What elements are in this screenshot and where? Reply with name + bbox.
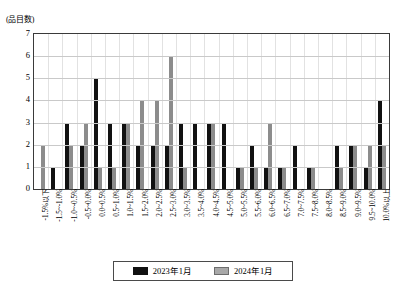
x-axis-tick: 9.0~9.5%	[356, 189, 363, 249]
legend-swatch-2024	[214, 267, 229, 275]
x-axis-tick: 3.5~4.0%	[199, 189, 206, 249]
y-axis-tick: 7	[0, 29, 30, 37]
bar-group	[361, 34, 375, 189]
bar-group	[176, 34, 190, 189]
bar	[222, 123, 226, 189]
x-axis-tick: -1.5~-1.0%	[57, 189, 64, 249]
legend-label-2024: 2024年1月	[234, 267, 273, 276]
bar-group	[290, 34, 304, 189]
y-axis-tick-labels: 01234567	[0, 33, 30, 190]
legend-item-2023: 2023年1月	[133, 267, 192, 276]
gridline	[34, 167, 389, 168]
bar-group	[62, 34, 76, 189]
bar-group	[190, 34, 204, 189]
gridline	[34, 145, 389, 146]
legend-label-2023: 2023年1月	[153, 267, 192, 276]
x-axis-tick-labels: -1.5%以下-1.5~-1.0%-1.0~-0.5%-0.5~0.0%0.0~…	[33, 191, 390, 253]
x-axis-tick: 6.0~6.5%	[270, 189, 277, 249]
chart-legend: 2023年1月 2024年1月	[113, 261, 293, 281]
bar-group	[77, 34, 91, 189]
bar	[193, 123, 197, 189]
bar	[112, 167, 116, 189]
legend-swatch-2023	[133, 267, 148, 275]
bar-group	[247, 34, 261, 189]
bar-group	[91, 34, 105, 189]
legend-item-2024: 2024年1月	[214, 267, 273, 276]
x-axis-tick: 7.0~7.5%	[299, 189, 306, 249]
x-axis-tick: 5.0~5.5%	[242, 189, 249, 249]
y-axis-tick: 5	[0, 73, 30, 81]
x-axis-tick: 7.5~8.0%	[313, 189, 320, 249]
bar	[311, 167, 315, 189]
bar-group	[148, 34, 162, 189]
bar-chart: (品目数) 01234567 -1.5%以下-1.5~-1.0%-1.0~-0.…	[0, 0, 403, 287]
x-axis-tick: 3.0~3.5%	[185, 189, 192, 249]
y-axis-tick: 6	[0, 51, 30, 59]
y-axis-tick: 1	[0, 162, 30, 170]
x-axis-tick: 1.5~2.0%	[143, 189, 150, 249]
bar-group	[105, 34, 119, 189]
x-axis-tick: 9.5~10.0%	[370, 189, 377, 249]
y-axis-tick: 4	[0, 95, 30, 103]
bar	[268, 123, 272, 189]
gridline	[34, 123, 389, 124]
x-axis-tick: 6.5~7.0%	[285, 189, 292, 249]
x-axis-tick: 0.0~0.5%	[100, 189, 107, 249]
x-axis-tick: 8.5~9.0%	[341, 189, 348, 249]
bar	[282, 167, 286, 189]
bar-group	[346, 34, 360, 189]
plot-area	[33, 33, 390, 190]
bar-group	[375, 34, 389, 189]
gridline	[34, 56, 389, 57]
x-axis-tick: 10.0%以上	[384, 189, 391, 249]
x-axis-tick: -0.5~0.0%	[86, 189, 93, 249]
bar	[51, 167, 55, 189]
bar-group	[162, 34, 176, 189]
x-axis-tick: 8.0~8.5%	[327, 189, 334, 249]
bar-group	[304, 34, 318, 189]
bar	[254, 167, 258, 189]
bar-group	[48, 34, 62, 189]
bar	[126, 123, 130, 189]
x-axis-tick: -1.5%以下	[43, 189, 50, 249]
x-axis-tick: 0.5~1.0%	[114, 189, 121, 249]
x-axis-tick: 4.5~5.0%	[228, 189, 235, 249]
bar	[211, 123, 215, 189]
bar-group	[133, 34, 147, 189]
gridline	[34, 78, 389, 79]
bar-group	[119, 34, 133, 189]
bar-group	[233, 34, 247, 189]
y-axis-tick: 0	[0, 184, 30, 192]
bar-group	[219, 34, 233, 189]
bar	[183, 167, 187, 189]
bar	[98, 167, 102, 189]
y-axis-unit-label: (品目数)	[6, 13, 34, 24]
bar-group	[332, 34, 346, 189]
x-axis-tick: -1.0~-0.5%	[72, 189, 79, 249]
bar-group	[261, 34, 275, 189]
y-axis-tick: 3	[0, 118, 30, 126]
bar-group	[204, 34, 218, 189]
bar	[84, 123, 88, 189]
bar	[240, 167, 244, 189]
gridline	[34, 100, 389, 101]
x-axis-tick: 2.5~3.0%	[171, 189, 178, 249]
bar	[339, 167, 343, 189]
bar-group	[34, 34, 48, 189]
y-axis-tick: 2	[0, 140, 30, 148]
x-axis-tick: 1.0~1.5%	[128, 189, 135, 249]
x-axis-tick: 4.0~4.5%	[214, 189, 221, 249]
bar-group	[318, 34, 332, 189]
x-axis-tick: 5.5~6.0%	[256, 189, 263, 249]
x-axis-tick: 2.0~2.5%	[157, 189, 164, 249]
bar-group	[275, 34, 289, 189]
bars-layer	[34, 34, 389, 189]
